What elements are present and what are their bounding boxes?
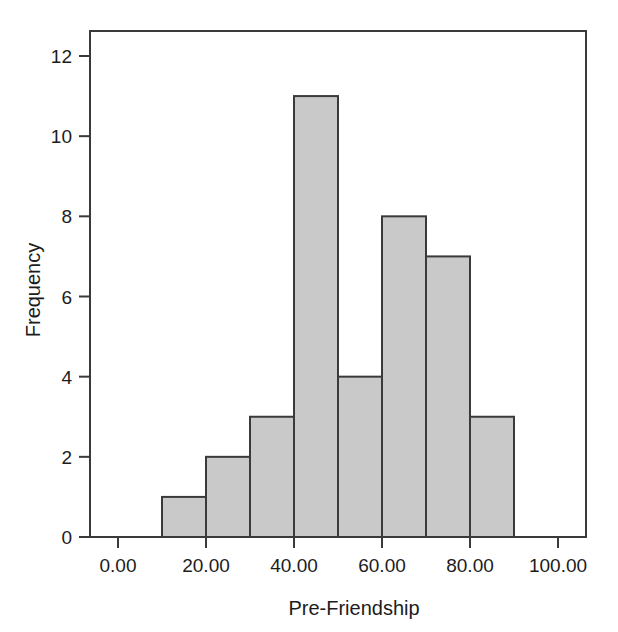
x-tick-label: 100.00 [529, 555, 587, 576]
histogram-bar [206, 457, 250, 537]
x-tick-label: 20.00 [182, 555, 230, 576]
y-tick-label: 8 [61, 206, 72, 227]
histogram-bar [426, 256, 470, 537]
y-tick-label: 10 [51, 126, 72, 147]
y-axis-title: Frequency [22, 243, 44, 338]
x-axis-title: Pre-Friendship [288, 597, 419, 619]
histogram-bar [382, 216, 426, 537]
y-tick-label: 2 [61, 447, 72, 468]
x-tick-label: 60.00 [358, 555, 406, 576]
histogram-bar [294, 96, 338, 537]
histogram-bar [338, 377, 382, 537]
histogram-bar [162, 497, 206, 537]
x-tick-label: 0.00 [100, 555, 137, 576]
histogram-bar [250, 417, 294, 537]
histogram-bar [470, 417, 514, 537]
chart-canvas: 0.0020.0040.0060.0080.00100.00 024681012… [0, 0, 618, 632]
histogram-chart: 0.0020.0040.0060.0080.00100.00 024681012… [0, 0, 618, 632]
x-tick-label: 40.00 [270, 555, 318, 576]
y-tick-label: 12 [51, 46, 72, 67]
y-tick-label: 4 [61, 367, 72, 388]
y-tick-label: 0 [61, 527, 72, 548]
x-tick-label: 80.00 [446, 555, 494, 576]
y-tick-label: 6 [61, 287, 72, 308]
